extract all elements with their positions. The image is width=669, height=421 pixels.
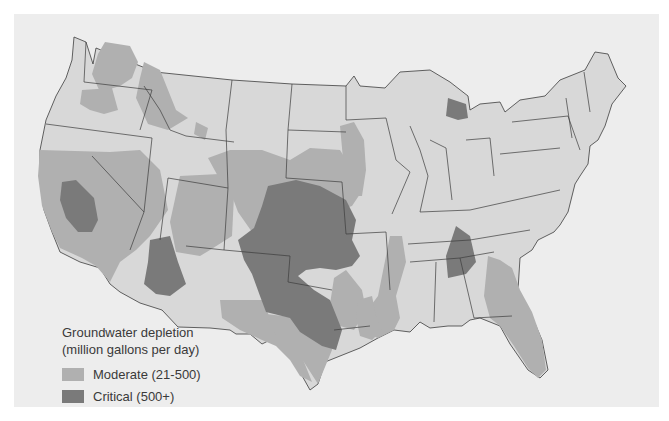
legend-label-moderate: Moderate (21-500) (93, 367, 201, 382)
moderate-swatch (62, 368, 84, 381)
legend-item-critical: Critical (500+) (62, 389, 201, 404)
legend-title-line1: Groundwater depletion (62, 324, 201, 341)
critical-swatch (62, 390, 84, 403)
legend-label-critical: Critical (500+) (93, 389, 174, 404)
legend-title-line2: (million gallons per day) (62, 341, 201, 358)
legend: Groundwater depletion (million gallons p… (62, 324, 201, 404)
legend-item-moderate: Moderate (21-500) (62, 367, 201, 382)
